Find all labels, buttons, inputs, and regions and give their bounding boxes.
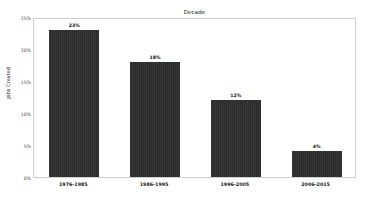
- bar-group: 12%: [211, 17, 261, 177]
- y-axis-tick-label: 25%: [3, 16, 31, 21]
- bar-group: 18%: [130, 17, 180, 177]
- y-axis-tick-labels: 0%5%10%15%20%25%: [0, 18, 31, 178]
- bar-value-label: 23%: [49, 23, 99, 29]
- bar-value-label: 4%: [292, 144, 342, 150]
- bar[interactable]: [49, 30, 99, 177]
- y-axis-tick-label: 5%: [3, 144, 31, 149]
- bar[interactable]: [130, 62, 180, 177]
- x-axis-tick-label: 1986-1995: [114, 181, 195, 188]
- bar[interactable]: [292, 151, 342, 177]
- y-axis-tick-label: 10%: [3, 112, 31, 117]
- y-axis-tick-label: 0%: [3, 176, 31, 181]
- bar[interactable]: [211, 100, 261, 177]
- x-axis-tick-label: 1996-2005: [195, 181, 276, 188]
- x-axis-tick-label: 1976-1985: [33, 181, 114, 188]
- y-axis-tick-label: 20%: [3, 48, 31, 53]
- bar-value-label: 18%: [130, 55, 180, 61]
- bar-group: 4%: [292, 17, 342, 177]
- x-axis-tick-labels: 1976-19851986-19951996-20052006-2015: [33, 181, 356, 193]
- y-axis-tick-label: 15%: [3, 80, 31, 85]
- x-axis-tick-label: 2006-2015: [275, 181, 356, 188]
- plot-area: 23%18%12%4%: [33, 18, 356, 178]
- chart-figure: Decade Jobs Created 0%5%10%15%20%25% 23%…: [0, 0, 372, 202]
- bar-group: 23%: [49, 17, 99, 177]
- chart-title: Decade: [33, 8, 356, 16]
- bars-layer: 23%18%12%4%: [34, 19, 355, 177]
- bar-value-label: 12%: [211, 93, 261, 99]
